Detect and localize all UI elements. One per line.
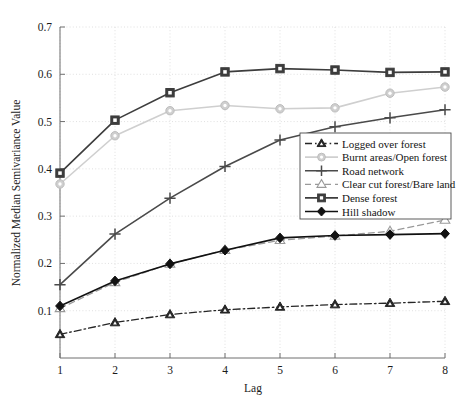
legend-item[interactable]: Dense forest bbox=[305, 192, 397, 204]
data-point-marker bbox=[165, 309, 175, 317]
data-point-marker bbox=[329, 121, 340, 132]
semivariogram-chart: 0.10.20.30.40.50.60.7 12345678 Logged ov… bbox=[0, 0, 468, 412]
data-point-marker bbox=[221, 101, 229, 109]
data-point-marker bbox=[318, 153, 326, 161]
data-point-marker bbox=[164, 193, 175, 204]
legend-label: Logged over forest bbox=[342, 138, 426, 150]
data-point-marker bbox=[111, 116, 119, 124]
data-point-marker bbox=[385, 298, 395, 306]
data-point-marker bbox=[166, 106, 174, 114]
data-point-marker bbox=[221, 68, 229, 76]
y-tick-label: 0.3 bbox=[38, 210, 53, 222]
x-tick-label: 5 bbox=[277, 364, 283, 376]
legend-label: Road network bbox=[342, 165, 405, 177]
data-point-marker bbox=[274, 134, 285, 145]
x-axis-title: Lag bbox=[244, 382, 262, 395]
legend-label: Burnt areas/Open forest bbox=[342, 151, 447, 163]
data-point-marker bbox=[220, 305, 230, 313]
data-point-marker bbox=[439, 104, 450, 115]
data-point-marker bbox=[441, 68, 449, 76]
x-tick-label: 7 bbox=[387, 364, 393, 376]
data-point-marker bbox=[386, 68, 394, 76]
data-point-marker bbox=[276, 64, 284, 72]
y-tick-label: 0.4 bbox=[38, 163, 53, 175]
data-point-marker bbox=[318, 194, 326, 202]
data-point-marker bbox=[440, 296, 450, 304]
x-tick-label: 4 bbox=[222, 364, 228, 376]
data-point-marker bbox=[330, 300, 340, 308]
x-tick-label: 3 bbox=[167, 364, 173, 376]
legend-label: Clear cut forest/Bare land bbox=[342, 178, 456, 190]
data-point-marker bbox=[56, 169, 64, 177]
data-point-marker bbox=[56, 180, 64, 188]
y-tick-label: 0.1 bbox=[38, 305, 53, 317]
x-tick-label: 6 bbox=[332, 364, 338, 376]
legend-label: Hill shadow bbox=[342, 206, 396, 218]
data-point-marker bbox=[331, 66, 339, 74]
plot-canvas: 0.10.20.30.40.50.60.7 12345678 Logged ov… bbox=[0, 0, 468, 412]
data-point-marker bbox=[166, 89, 174, 97]
data-point-marker bbox=[111, 132, 119, 140]
data-point-marker bbox=[331, 104, 339, 112]
series-logged-over-forest bbox=[55, 296, 450, 337]
data-point-marker bbox=[441, 229, 450, 239]
y-axis-title: Normalized Median Semivariance Value bbox=[10, 100, 22, 287]
data-point-marker bbox=[441, 83, 449, 91]
data-point-marker bbox=[386, 89, 394, 97]
data-point-marker bbox=[276, 105, 284, 113]
legend-label: Dense forest bbox=[342, 192, 397, 204]
y-axis-tick-labels: 0.10.20.30.40.50.60.7 bbox=[38, 21, 53, 317]
x-tick-label: 1 bbox=[57, 364, 63, 376]
y-tick-label: 0.5 bbox=[38, 116, 53, 128]
x-tick-label: 2 bbox=[112, 364, 118, 376]
x-tick-label: 8 bbox=[442, 364, 448, 376]
data-point-marker bbox=[384, 112, 395, 123]
y-tick-label: 0.2 bbox=[38, 257, 53, 269]
data-point-marker bbox=[275, 302, 285, 310]
series-line bbox=[60, 234, 445, 306]
data-point-marker bbox=[219, 161, 230, 172]
y-tick-label: 0.6 bbox=[38, 68, 53, 80]
y-tick-label: 0.7 bbox=[38, 21, 53, 33]
chart-legend: Logged over forestBurnt areas/Open fores… bbox=[300, 133, 456, 219]
x-axis-tick-labels: 12345678 bbox=[57, 364, 448, 376]
